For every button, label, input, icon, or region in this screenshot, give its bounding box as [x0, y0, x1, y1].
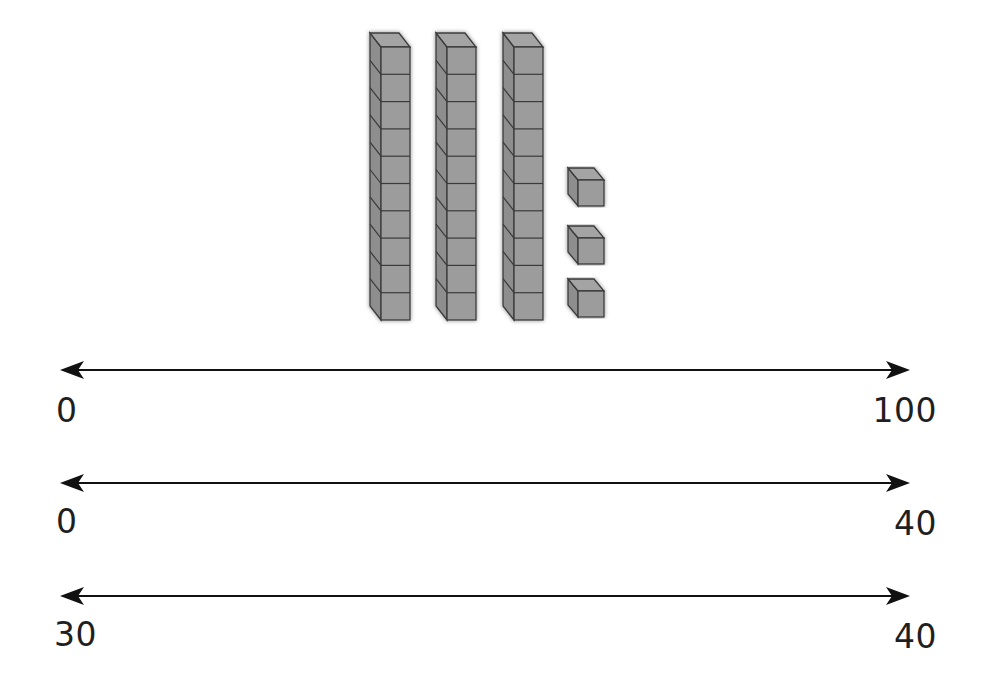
number-line-2-end-label: 40 — [737, 507, 937, 540]
number-line-3: 30 40 — [0, 576, 981, 656]
number-line-2: 0 40 — [0, 463, 981, 543]
base-ten-blocks-drawing — [0, 0, 981, 340]
double-arrow-line-icon — [0, 350, 981, 390]
tens-rod-3 — [503, 33, 543, 320]
tens-rod-1 — [370, 33, 410, 320]
base-ten-blocks — [0, 0, 981, 340]
number-line-3-start-label: 30 — [54, 618, 97, 651]
number-line-3-end-label: 40 — [737, 620, 937, 653]
double-arrow-line-icon — [0, 576, 981, 616]
unit-cube-2 — [568, 226, 604, 264]
diagram-canvas: 0 100 0 40 30 40 — [0, 0, 981, 685]
number-line-1-start-label: 0 — [56, 394, 78, 427]
tens-rod-2 — [436, 33, 476, 320]
number-line-2-start-label: 0 — [56, 505, 78, 538]
unit-cube-3 — [568, 279, 604, 317]
number-line-1: 0 100 — [0, 350, 981, 430]
double-arrow-line-icon — [0, 463, 981, 503]
number-line-1-end-label: 100 — [737, 394, 937, 427]
unit-cube-1 — [568, 168, 604, 206]
